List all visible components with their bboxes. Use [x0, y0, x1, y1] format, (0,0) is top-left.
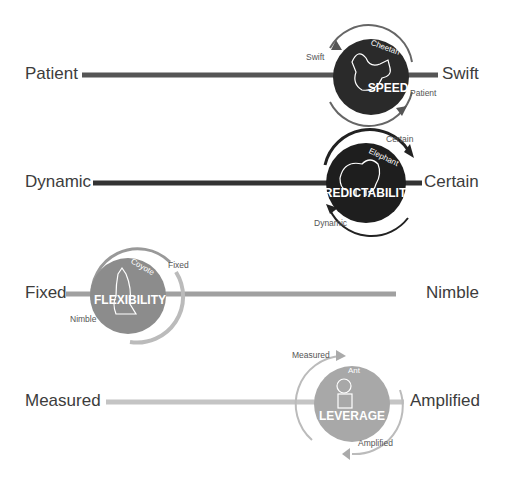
speed-scale: SPEED Cheetah Swift Patient: [82, 25, 438, 126]
speed-left-label: Patient: [25, 64, 78, 84]
leverage-right-label: Amplified: [410, 391, 480, 411]
predictability-scale: PREDICTABILITY Elephant Certain Dynamic: [93, 130, 422, 236]
speed-arc-label-top: Swift: [306, 52, 325, 62]
leverage-arrow-bottom-icon: [342, 448, 350, 460]
speed-right-label: Swift: [442, 64, 479, 84]
speed-word: SPEED: [368, 81, 409, 95]
predictability-right-label: Certain: [424, 172, 479, 192]
flexibility-arc-label-top: Fixed: [168, 260, 189, 270]
flexibility-arc-label-bottom: Nimble: [70, 314, 97, 324]
leverage-arc-label-bottom: Amplified: [358, 438, 393, 448]
predictability-left-label: Dynamic: [25, 172, 91, 192]
predictability-arc-label-bottom: Dynamic: [314, 218, 348, 228]
leverage-animal: Ant: [348, 366, 361, 375]
flexibility-scale: FLEXIBILITY Coyote Fixed Nimble: [66, 249, 396, 343]
leverage-scale: LEVERAGE Ant Measured Amplified: [106, 350, 404, 460]
predictability-arc-label-top: Certain: [386, 134, 414, 144]
speed-arc-label-bottom: Patient: [410, 88, 437, 98]
leverage-arrow-top-icon: [336, 350, 346, 361]
flexibility-word: FLEXIBILITY: [94, 293, 166, 307]
leverage-arc-label-top: Measured: [292, 350, 330, 360]
predictability-circle: [326, 143, 406, 223]
flexibility-left-label: Fixed: [25, 283, 67, 303]
flexibility-right-label: Nimble: [426, 283, 479, 303]
leverage-left-label: Measured: [25, 391, 101, 411]
leverage-word: LEVERAGE: [319, 409, 385, 423]
predictability-word: PREDICTABILITY: [316, 186, 414, 200]
